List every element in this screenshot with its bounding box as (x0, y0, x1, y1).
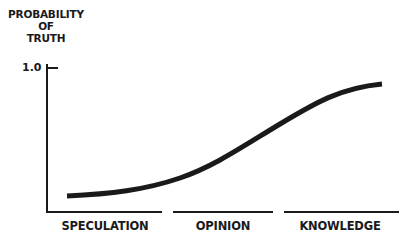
probability-curve (67, 84, 382, 196)
x-label-speculation: SPECULATION (50, 219, 160, 233)
x-label-knowledge: KNOWLEDGE (284, 219, 396, 233)
chart-canvas (0, 0, 411, 247)
x-label-opinion: OPINION (173, 219, 273, 233)
